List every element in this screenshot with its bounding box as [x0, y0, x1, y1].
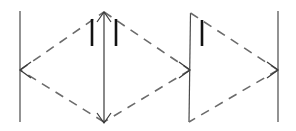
diagram-svg — [0, 0, 296, 131]
arrowhead-middle-right-icon — [179, 62, 190, 78]
diagram-canvas — [0, 0, 296, 131]
arrowhead-far-right-icon — [267, 62, 278, 78]
arrowheads-group — [20, 62, 278, 78]
vertical-line-2 — [189, 13, 191, 122]
dashed-diamond — [20, 12, 190, 122]
triangle-edge-upper — [191, 13, 279, 70]
center-double-arrow — [97, 12, 111, 123]
vertical-lines-group — [20, 11, 278, 122]
diamond-edge-bottom-left — [20, 70, 104, 122]
triangle-edge-lower — [189, 70, 278, 122]
diamond-edge-right-bottom — [104, 70, 190, 122]
